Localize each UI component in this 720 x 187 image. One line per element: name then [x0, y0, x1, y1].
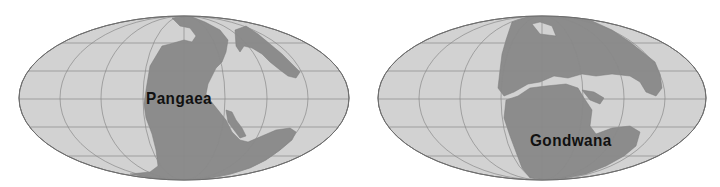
gondwana-label: Gondwana [530, 131, 612, 151]
pangaea-label: Pangaea [146, 89, 212, 109]
map-figure [0, 0, 720, 187]
